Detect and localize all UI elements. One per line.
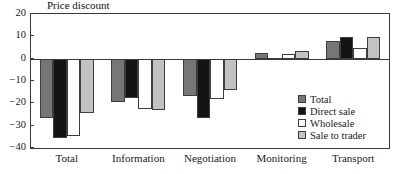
bar (326, 41, 340, 59)
y-axis-tick-label: −20 (10, 97, 26, 107)
y-axis-tick-label: 10 (16, 30, 27, 40)
legend-swatch-icon (298, 119, 306, 127)
legend-item: Total (298, 93, 386, 105)
legend-item-label: Sale to trader (310, 130, 366, 141)
legend-swatch-icon (298, 95, 306, 103)
y-axis-tick-mark (30, 13, 34, 14)
bar (40, 59, 54, 118)
bar (353, 48, 367, 59)
bar (340, 37, 354, 58)
x-axis-labels: TotalInformationNegotiationMonitoringTra… (31, 152, 389, 172)
y-axis-tick-label: 20 (16, 8, 27, 18)
price-discount-bar-chart: Price discount 20100−10−20−30−40 TotalIn… (0, 0, 398, 174)
y-axis-tick-mark (30, 125, 34, 126)
bar (224, 59, 238, 90)
bar-group (40, 14, 94, 148)
y-axis-tick-label: −30 (10, 120, 26, 130)
bar (53, 59, 67, 138)
y-axis-tick-mark (30, 80, 34, 81)
bar (80, 59, 94, 114)
bar (67, 59, 81, 136)
bar-group (111, 14, 165, 148)
bar (152, 59, 166, 110)
bar (138, 59, 152, 109)
bar (295, 51, 309, 59)
zero-baseline (30, 59, 390, 60)
chart-title: Price discount (47, 0, 110, 11)
legend-swatch-icon (298, 131, 306, 139)
bar (183, 59, 197, 96)
bar (125, 59, 139, 98)
y-axis-tick-label: −40 (10, 142, 26, 152)
bar (111, 59, 125, 103)
legend-item: Direct sale (298, 105, 386, 117)
y-axis-tick-label: −10 (10, 75, 26, 85)
legend-item-label: Wholesale (310, 118, 354, 129)
legend-item-label: Direct sale (310, 106, 355, 117)
y-axis-tick-mark (30, 147, 34, 148)
bar-group (183, 14, 237, 148)
legend-swatch-icon (298, 107, 306, 115)
legend-item: Sale to trader (298, 129, 386, 141)
x-axis-category-label: Transport (332, 152, 374, 165)
y-axis-tick-mark (30, 102, 34, 103)
y-axis-tick-label: 0 (21, 53, 26, 63)
chart-legend: TotalDirect saleWholesaleSale to trader (298, 93, 386, 141)
y-axis-labels: 20100−10−20−30−40 (0, 13, 30, 149)
x-axis-category-label: Total (56, 152, 78, 165)
x-axis-category-label: Information (112, 152, 165, 165)
legend-item: Wholesale (298, 117, 386, 129)
x-axis-category-label: Negotiation (184, 152, 236, 165)
bar (367, 37, 381, 58)
y-axis-tick-mark (30, 35, 34, 36)
legend-item-label: Total (310, 94, 331, 105)
x-axis-category-label: Monitoring (257, 152, 307, 165)
bar (210, 59, 224, 99)
bar (197, 59, 211, 118)
